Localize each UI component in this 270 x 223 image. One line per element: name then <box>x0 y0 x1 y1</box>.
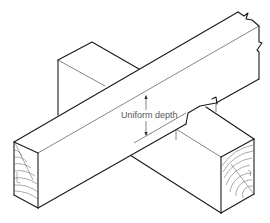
uniform-depth-label: Uniform depth <box>121 110 178 120</box>
timber-joint-diagram: Uniform depth <box>0 0 270 223</box>
